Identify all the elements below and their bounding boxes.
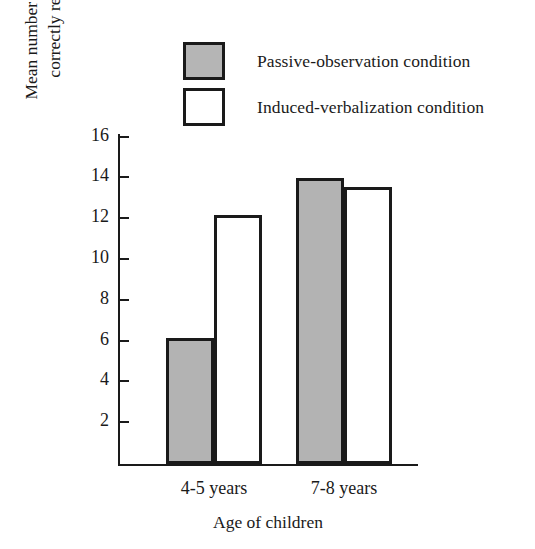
legend-item: Passive-observation condition <box>183 38 528 84</box>
bar-passive-observation-7-8-years <box>296 178 344 464</box>
bar-induced-verbalization-7-8-years <box>344 187 392 464</box>
y-tick-label-6: 6 <box>75 329 109 349</box>
bar-chart-figure: Passive-observation condition Induced-ve… <box>0 0 535 549</box>
x-category-label-4-5-years: 4-5 years <box>154 478 274 499</box>
legend-item: Induced-verbalization condition <box>183 84 528 130</box>
y-axis-title: Mean number of responses correctly repro… <box>20 0 66 150</box>
y-tick-6: 6 <box>118 340 129 342</box>
legend-swatch-induced-verbalization <box>183 88 225 126</box>
y-tick-label-12: 12 <box>75 206 109 226</box>
legend-label-passive-observation: Passive-observation condition <box>257 51 470 72</box>
y-tick-10: 10 <box>118 258 129 260</box>
x-axis-title: Age of children <box>118 512 418 533</box>
y-tick-label-14: 14 <box>75 165 109 185</box>
y-tick-label-16: 16 <box>75 125 109 145</box>
y-axis-title-line-2: correctly reproduced <box>43 0 66 150</box>
bar-passive-observation-4-5-years <box>166 338 214 465</box>
y-tick-label-10: 10 <box>75 247 109 267</box>
legend-swatch-passive-observation <box>183 42 225 80</box>
bar-induced-verbalization-4-5-years <box>214 215 262 464</box>
y-tick-2: 2 <box>118 421 129 423</box>
y-tick-12: 12 <box>118 217 129 219</box>
y-tick-label-8: 8 <box>75 288 109 308</box>
chart-legend: Passive-observation condition Induced-ve… <box>183 38 528 130</box>
y-tick-label-2: 2 <box>75 410 109 430</box>
y-tick-4: 4 <box>118 380 129 382</box>
legend-label-induced-verbalization: Induced-verbalization condition <box>257 97 484 118</box>
y-axis-title-line-1: Mean number of responses <box>20 0 43 150</box>
x-axis-line <box>118 464 418 466</box>
y-tick-16: 16 <box>118 136 129 138</box>
x-category-label-7-8-years: 7-8 years <box>284 478 404 499</box>
plot-area: 16 14 12 10 8 6 4 2 4-5 years 7-8 years <box>118 134 418 466</box>
y-tick-14: 14 <box>118 176 129 178</box>
y-tick-8: 8 <box>118 299 129 301</box>
y-tick-label-4: 4 <box>75 369 109 389</box>
